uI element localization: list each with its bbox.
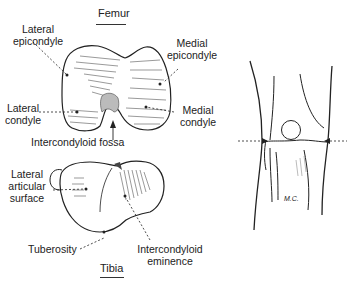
- tibia-title: Tibia: [100, 262, 123, 274]
- label-lateral-articular-surface: Lateral articular surface: [2, 168, 52, 204]
- tibia-title-underline: [100, 277, 124, 278]
- femur-title-underline: [96, 24, 126, 25]
- label-intercondyloid-eminence: Intercondyloid eminence: [134, 243, 206, 267]
- femur-illustration: [33, 42, 178, 140]
- label-medial-epicondyle: Medial epicondyle: [160, 37, 224, 61]
- label-tuberosity: Tuberosity: [28, 243, 77, 255]
- femur-title: Femur: [98, 7, 130, 19]
- label-intercondyloid-fossa: Intercondyloid fossa: [31, 136, 124, 148]
- tibia-illustration: [50, 161, 164, 249]
- label-lateral-epicondyle: Lateral epicondyle: [8, 23, 68, 47]
- label-lateral-condyle: Lateral condyle: [2, 102, 44, 126]
- artist-initials: M.C.: [284, 193, 299, 205]
- label-medial-condyle: Medial condyle: [176, 104, 220, 128]
